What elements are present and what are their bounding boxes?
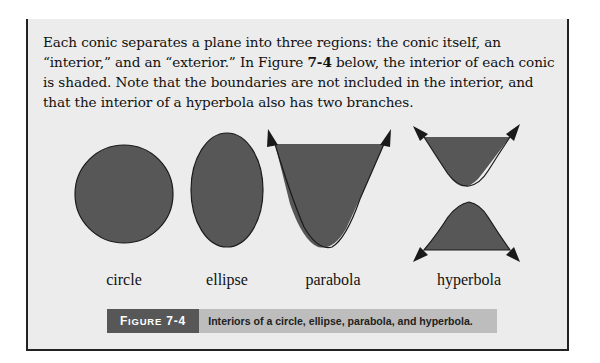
tag-number: 7-4 <box>166 314 186 328</box>
hyperbola-shape <box>413 124 520 262</box>
circle-label: circle <box>106 271 142 289</box>
hyperbola-label: hyperbola <box>437 271 501 289</box>
tag-letter: F <box>120 314 128 328</box>
ellipse-label: ellipse <box>206 271 248 289</box>
ellipse-shape <box>191 133 263 247</box>
tag-word: IGURE <box>128 316 162 327</box>
figure-number-tag: FIGURE 7-4 <box>107 309 199 333</box>
conics-figure <box>28 19 567 349</box>
circle-shape <box>75 145 173 243</box>
parabola-label: parabola <box>305 271 360 289</box>
figure-caption: FIGURE 7-4 Interiors of a circle, ellips… <box>107 309 497 333</box>
sidebar-box: Each conic separates a plane into three … <box>26 19 569 351</box>
parabola-shape <box>267 129 391 248</box>
caption-text: Interiors of a circle, ellipse, parabola… <box>199 315 473 327</box>
